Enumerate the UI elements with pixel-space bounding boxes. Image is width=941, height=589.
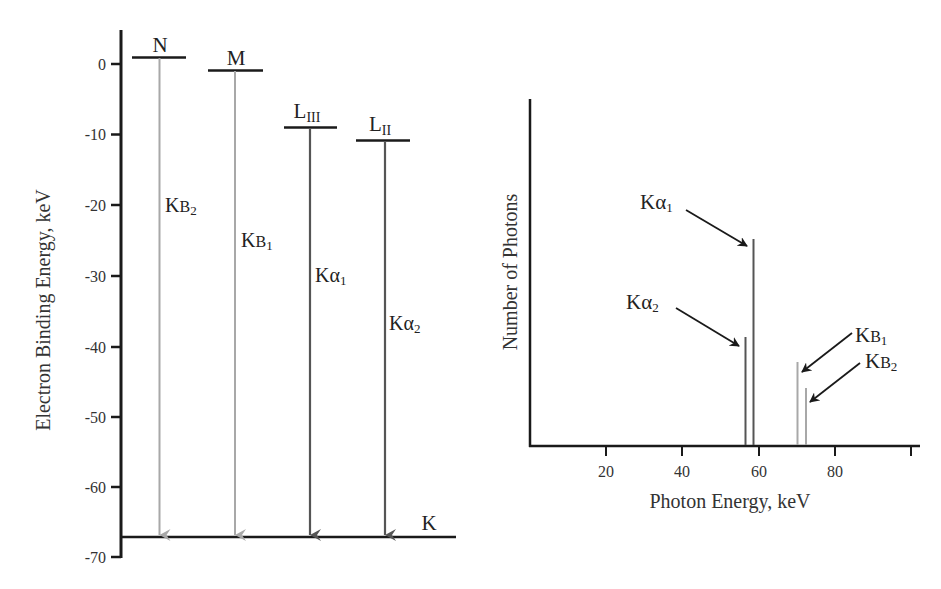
left-y-axis-label: Electron Binding Energy, keV — [32, 189, 55, 431]
transition-label-kb1: KB1 — [241, 229, 273, 253]
annotation-label-ka1: Kα1 — [640, 190, 673, 215]
tick-label: -30 — [85, 268, 106, 285]
figure-canvas: Electron Binding Energy, keV 0 -10 -20 -… — [0, 0, 941, 589]
label-l2: LII — [369, 112, 391, 138]
tick-label: 60 — [751, 463, 767, 480]
annotation-label-kb2: KB2 — [865, 349, 897, 374]
annotation-arrows — [676, 210, 860, 402]
right-x-ticks — [606, 446, 911, 456]
tick-label: -40 — [85, 339, 106, 356]
tick-label: -60 — [85, 479, 106, 496]
tick-label: -50 — [85, 409, 106, 426]
pointer-kb2 — [810, 363, 860, 402]
shell-levels — [121, 58, 456, 538]
tick-label: 0 — [98, 56, 106, 73]
pointer-ka2 — [676, 308, 739, 346]
left-y-tick-labels: 0 -10 -20 -30 -40 -50 -60 -70 — [85, 56, 106, 566]
tick-label: -70 — [85, 549, 106, 566]
label-k: K — [421, 511, 436, 535]
transition-label-ka1: Kα1 — [315, 264, 346, 288]
label-n: N — [152, 33, 167, 57]
transition-arrows — [160, 58, 386, 535]
right-y-axis-label: Number of Photons — [499, 193, 521, 350]
annotation-label-kb1: KB1 — [855, 323, 887, 348]
pointer-kb1 — [802, 333, 852, 372]
tick-label: 40 — [674, 463, 690, 480]
tick-label: -20 — [85, 197, 106, 214]
label-m: M — [227, 46, 246, 70]
right-x-tick-labels: 20 40 60 80 — [598, 463, 843, 480]
emission-spectrum-chart: Number of Photons 20 40 60 80 Photon Ene… — [499, 99, 920, 513]
tick-label: 80 — [827, 463, 843, 480]
label-l3: LIII — [294, 99, 321, 125]
energy-level-diagram: Electron Binding Energy, keV 0 -10 -20 -… — [32, 30, 456, 566]
annotation-label-ka2: Kα2 — [626, 290, 659, 315]
tick-label: 20 — [598, 463, 614, 480]
transition-label-ka2: Kα2 — [389, 312, 420, 336]
pointer-ka1 — [686, 210, 747, 246]
tick-label: -10 — [85, 126, 106, 143]
right-x-axis-label: Photon Energy, keV — [649, 490, 811, 513]
transition-label-kb2: KB2 — [165, 194, 197, 218]
spectral-lines — [746, 239, 807, 445]
